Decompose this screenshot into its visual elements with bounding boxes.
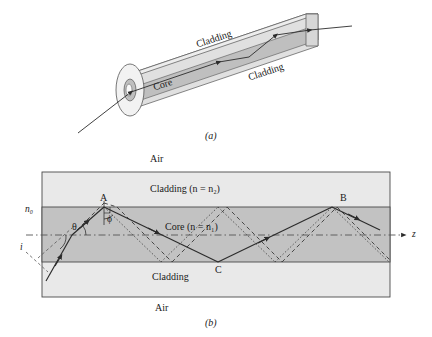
label-point-c: C <box>215 265 222 275</box>
label-air-top: Air <box>150 154 163 164</box>
label-point-b: B <box>340 193 347 203</box>
core-text: Core (n = n₁) <box>165 221 218 232</box>
label-n0: n₀ <box>25 205 33 215</box>
label-angle-phi: ϕ <box>107 215 112 225</box>
label-core-b: Core (n = n₁) <box>165 222 218 232</box>
label-angle-i: i <box>20 243 23 253</box>
cladding-top-text: Cladding (n = n₂) <box>150 183 220 194</box>
label-air-bottom: Air <box>155 303 168 313</box>
label-axis-z: z <box>412 230 416 240</box>
label-point-a: A <box>100 193 107 203</box>
label-cladding-top-b: Cladding (n = n₂) <box>150 184 220 194</box>
label-angle-theta: θ <box>72 222 77 232</box>
figure-panel-b: Air Cladding (n = n₂) Core (n = n₁) Clad… <box>0 0 432 337</box>
fiber-cross-section-svg <box>0 0 432 337</box>
label-cladding-bottom-b: Cladding <box>152 272 189 282</box>
caption-panel-b: (b) <box>205 318 217 328</box>
